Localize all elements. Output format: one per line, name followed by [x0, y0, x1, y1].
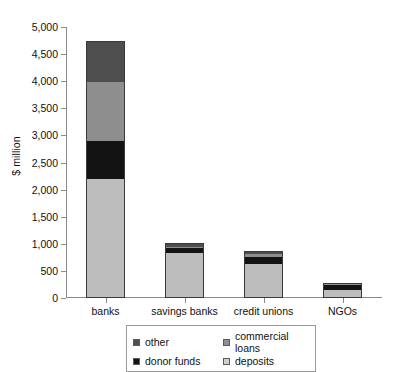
x-axis-category-label: NGOs [328, 305, 357, 317]
bar-segment-other [86, 41, 125, 83]
legend-label: commercial loans [235, 330, 309, 354]
legend-swatch-icon [133, 339, 140, 346]
bar-segment-donor-funds [86, 141, 125, 179]
plot-area: 05001,0001,5002,0002,5003,0003,5004,0004… [66, 27, 382, 298]
y-axis-tick [61, 298, 66, 299]
y-axis-tick-label: 4,500 [32, 48, 58, 60]
y-axis-title: $ million [10, 116, 22, 196]
y-axis-tick-label: 0 [52, 292, 58, 304]
x-axis-category-label: savings banks [151, 305, 218, 317]
legend-swatch-icon [223, 339, 230, 346]
y-axis-tick-label: 3,500 [32, 102, 58, 114]
bar-series-container: bankssavings bankscredit unionsNGOs [66, 27, 382, 298]
bar-banks[interactable]: banks [86, 41, 125, 298]
x-axis-tick [343, 298, 344, 303]
bar-segment-deposits [86, 179, 125, 298]
x-axis-tick [185, 298, 186, 303]
y-axis-tick-label: 1,000 [32, 238, 58, 250]
x-axis-tick [264, 298, 265, 303]
bar-credit-unions[interactable]: credit unions [244, 251, 283, 298]
x-axis-tick [106, 298, 107, 303]
x-axis-category-label: credit unions [234, 305, 294, 317]
bar-savings-banks[interactable]: savings banks [165, 243, 204, 298]
bar-segment-donor-funds [244, 257, 283, 264]
bar-segment-deposits [323, 290, 362, 298]
y-axis-tick-label: 3,000 [32, 129, 58, 141]
chart-legend: other commercial loans donor funds depos… [126, 325, 316, 372]
legend-item-commercial-loans: commercial loans [223, 330, 309, 354]
legend-swatch-icon [133, 358, 140, 365]
stacked-bar-chart: $ million 05001,0001,5002,0002,5003,0003… [0, 0, 407, 372]
y-axis-tick-label: 5,000 [32, 21, 58, 33]
legend-label: donor funds [145, 355, 200, 367]
legend-label: deposits [235, 355, 274, 367]
legend-item-other: other [133, 330, 219, 354]
bar-segment-commercial-loans [86, 82, 125, 141]
y-axis-tick-label: 500 [40, 265, 58, 277]
y-axis-tick-label: 2,500 [32, 157, 58, 169]
bar-segment-deposits [244, 264, 283, 298]
y-axis-tick-label: 2,000 [32, 184, 58, 196]
bar-NGOs[interactable]: NGOs [323, 283, 362, 298]
legend-label: other [145, 336, 169, 348]
y-axis-tick-label: 1,500 [32, 211, 58, 223]
legend-swatch-icon [223, 358, 230, 365]
bar-segment-deposits [165, 253, 204, 298]
legend-item-deposits: deposits [223, 355, 309, 367]
legend-item-donor-funds: donor funds [133, 355, 219, 367]
y-axis-tick-label: 4,000 [32, 75, 58, 87]
x-axis-category-label: banks [91, 305, 119, 317]
